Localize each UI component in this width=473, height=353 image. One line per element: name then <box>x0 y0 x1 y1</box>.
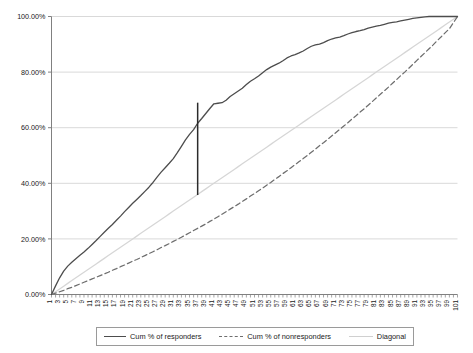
x-tick-label: 83 <box>378 300 385 308</box>
legend-item-nonresponders: Cum % of nonresponders <box>219 332 331 341</box>
x-tick-label: 43 <box>216 300 223 308</box>
x-tick-label: 5 <box>62 300 69 304</box>
x-tick-label: 77 <box>354 300 361 308</box>
legend-item-responders: Cum % of responders <box>104 332 201 341</box>
x-tick-label: 13 <box>94 300 101 308</box>
x-tick-label: 15 <box>102 300 109 308</box>
x-tick-label: 1 <box>46 300 53 304</box>
x-tick-label: 59 <box>281 300 288 308</box>
x-tick-label: 75 <box>346 300 353 308</box>
x-tick-label: 73 <box>338 300 345 308</box>
x-tick-label: 87 <box>395 300 402 308</box>
legend-label-responders: Cum % of responders <box>130 332 201 341</box>
legend-label-diagonal: Diagonal <box>377 332 406 341</box>
x-tick-label: 61 <box>289 300 296 308</box>
x-tick-label: 63 <box>297 300 304 308</box>
y-tick-label: 60.00% <box>21 123 46 132</box>
cumulative-gains-chart: 0.00%20.00%40.00%60.00%80.00%100.00%1357… <box>0 0 473 353</box>
x-tick-label: 97 <box>435 300 442 308</box>
x-tick-label: 67 <box>313 300 320 308</box>
x-tick-label: 51 <box>249 300 256 308</box>
plot-area: 0.00%20.00%40.00%60.00%80.00%100.00%1357… <box>0 0 473 318</box>
legend-swatch-light-icon <box>349 336 373 337</box>
x-tick-label: 41 <box>208 300 215 308</box>
x-tick-label: 99 <box>443 300 450 308</box>
x-tick-label: 33 <box>175 300 182 308</box>
x-tick-label: 55 <box>265 300 272 308</box>
x-tick-label: 25 <box>143 300 150 308</box>
legend-label-nonresponders: Cum % of nonresponders <box>247 332 331 341</box>
x-tick-label: 89 <box>403 300 410 308</box>
x-tick-label: 81 <box>370 300 377 308</box>
x-tick-label: 71 <box>330 300 337 308</box>
x-tick-label: 95 <box>427 300 434 308</box>
x-tick-label: 85 <box>387 300 394 308</box>
x-tick-label: 11 <box>86 300 93 307</box>
x-tick-label: 27 <box>151 300 158 308</box>
x-tick-label: 37 <box>192 300 199 308</box>
x-tick-label: 69 <box>322 300 329 308</box>
y-tick-label: 80.00% <box>21 68 46 77</box>
x-tick-label: 39 <box>200 300 207 308</box>
legend-swatch-solid-icon <box>104 336 126 337</box>
x-tick-label: 19 <box>119 300 126 308</box>
x-tick-label: 17 <box>110 300 117 308</box>
x-tick-label: 47 <box>232 300 239 308</box>
x-tick-label: 79 <box>362 300 369 308</box>
series-line-2 <box>52 17 458 295</box>
x-tick-label: 45 <box>224 300 231 308</box>
y-tick-label: 40.00% <box>21 179 46 188</box>
x-tick-label: 23 <box>135 300 142 308</box>
x-tick-label: 57 <box>273 300 280 308</box>
legend-swatch-dashed-icon <box>219 336 243 337</box>
y-tick-label: 100.00% <box>17 12 46 21</box>
x-tick-label: 65 <box>305 300 312 308</box>
x-tick-label: 29 <box>159 300 166 308</box>
x-tick-label: 53 <box>257 300 264 308</box>
x-tick-label: 21 <box>127 300 134 308</box>
chart-legend: Cum % of responders Cum % of nonresponde… <box>96 327 414 346</box>
x-tick-label: 35 <box>184 300 191 308</box>
x-tick-label: 93 <box>419 300 426 308</box>
chart-canvas: 0.00%20.00%40.00%60.00%80.00%100.00%1357… <box>0 0 473 318</box>
x-tick-label: 49 <box>240 300 247 308</box>
x-tick-label: 101 <box>452 300 459 311</box>
y-tick-label: 0.00% <box>25 290 46 299</box>
legend-item-diagonal: Diagonal <box>349 332 406 341</box>
x-tick-label: 91 <box>411 300 418 308</box>
x-tick-label: 7 <box>70 300 77 304</box>
x-tick-label: 3 <box>54 300 61 304</box>
x-tick-label: 9 <box>78 300 85 304</box>
y-tick-label: 20.00% <box>21 235 46 244</box>
x-tick-label: 31 <box>167 300 174 308</box>
